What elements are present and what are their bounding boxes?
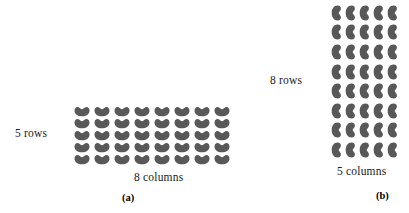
bean [192, 141, 212, 153]
bean-icon [173, 154, 191, 165]
bean [385, 42, 399, 62]
bean-icon [331, 82, 342, 100]
bean [385, 140, 399, 160]
bean-icon [93, 130, 111, 141]
bean [357, 140, 371, 160]
bean-icon [373, 121, 384, 139]
bean [112, 105, 132, 117]
bean-icon [113, 106, 131, 117]
bean [192, 129, 212, 141]
bean [72, 129, 92, 141]
panel-b-column-label: 5 columns [337, 165, 386, 178]
bean [132, 129, 152, 141]
bean [152, 153, 172, 165]
bean-icon [345, 63, 356, 81]
bean-icon [387, 121, 398, 139]
bean [357, 101, 371, 121]
bean-icon [173, 118, 191, 129]
bean [92, 117, 112, 129]
panel-a-bean-grid [72, 105, 232, 165]
bean-icon [153, 118, 171, 129]
bean [343, 121, 357, 141]
bean [212, 129, 232, 141]
bean-icon [133, 154, 151, 165]
bean [343, 42, 357, 62]
bean [385, 101, 399, 121]
bean-icon [345, 141, 356, 159]
bean [385, 81, 399, 101]
bean-icon [373, 82, 384, 100]
bean-icon [373, 4, 384, 22]
bean-icon [93, 142, 111, 153]
bean [371, 121, 385, 141]
bean [371, 81, 385, 101]
bean [152, 129, 172, 141]
bean [72, 141, 92, 153]
panel-b-row-label: 8 rows [270, 74, 302, 87]
bean-icon [331, 4, 342, 22]
bean [343, 3, 357, 23]
bean [212, 153, 232, 165]
bean-icon [373, 23, 384, 41]
bean-icon [373, 63, 384, 81]
panel-b-caption: (b) [376, 190, 389, 202]
bean [357, 42, 371, 62]
bean [385, 62, 399, 82]
bean-icon [73, 142, 91, 153]
bean-icon [193, 142, 211, 153]
bean [371, 101, 385, 121]
bean-icon [345, 43, 356, 61]
bean-icon [193, 154, 211, 165]
bean-icon [93, 118, 111, 129]
bean-icon [345, 121, 356, 139]
bean-icon [331, 63, 342, 81]
panel-b-bean-grid [329, 3, 399, 160]
bean-icon [73, 130, 91, 141]
bean-icon [373, 102, 384, 120]
bean [192, 153, 212, 165]
bean [371, 62, 385, 82]
bean-icon [173, 130, 191, 141]
bean-icon [387, 4, 398, 22]
bean [172, 153, 192, 165]
bean [329, 62, 343, 82]
bean-icon [387, 102, 398, 120]
bean-icon [331, 141, 342, 159]
bean-icon [387, 141, 398, 159]
bean-array-figure: 5 rows 8 columns (a) 8 rows 5 columns (b… [0, 0, 409, 213]
bean-icon [73, 106, 91, 117]
bean-icon [345, 4, 356, 22]
bean-icon [359, 63, 370, 81]
bean [357, 121, 371, 141]
bean [371, 140, 385, 160]
bean [152, 105, 172, 117]
bean-icon [331, 102, 342, 120]
bean-icon [113, 142, 131, 153]
bean-icon [387, 63, 398, 81]
bean [112, 141, 132, 153]
bean [329, 121, 343, 141]
bean [172, 117, 192, 129]
bean [72, 117, 92, 129]
bean-icon [113, 130, 131, 141]
bean-icon [173, 142, 191, 153]
bean [343, 62, 357, 82]
bean [172, 105, 192, 117]
bean-icon [193, 130, 211, 141]
bean-icon [133, 106, 151, 117]
bean [212, 117, 232, 129]
bean-icon [73, 118, 91, 129]
bean [152, 141, 172, 153]
bean [371, 23, 385, 43]
bean [132, 141, 152, 153]
bean-icon [373, 43, 384, 61]
bean-icon [133, 142, 151, 153]
bean [329, 101, 343, 121]
bean [72, 153, 92, 165]
bean [132, 153, 152, 165]
bean-icon [359, 43, 370, 61]
bean-icon [193, 106, 211, 117]
bean-icon [213, 142, 231, 153]
bean-icon [345, 82, 356, 100]
bean-icon [193, 118, 211, 129]
